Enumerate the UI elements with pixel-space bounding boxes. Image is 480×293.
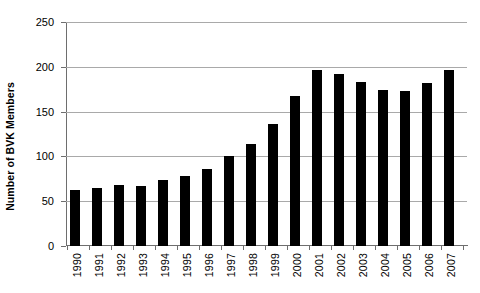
x-axis-tick-label: 2000 — [291, 253, 303, 277]
x-axis-tick — [155, 245, 156, 250]
x-axis-tick — [331, 245, 332, 250]
x-axis-tick — [243, 245, 244, 250]
x-axis-tick — [353, 245, 354, 250]
bar — [180, 176, 190, 246]
x-axis-tick — [67, 245, 68, 250]
bar — [290, 96, 300, 246]
x-axis-tick-label: 1998 — [247, 253, 259, 277]
x-axis-tick — [463, 245, 464, 250]
x-axis-tick — [199, 245, 200, 250]
x-axis-tick — [89, 245, 90, 250]
bar — [312, 70, 322, 246]
y-axis-tick — [61, 246, 66, 247]
y-axis-tick-label: 200 — [14, 61, 54, 73]
bar — [70, 190, 80, 246]
x-axis-tick — [419, 245, 420, 250]
bar — [356, 82, 366, 246]
bar — [224, 156, 234, 246]
bar — [246, 144, 256, 246]
x-axis-tick-label: 1995 — [181, 253, 193, 277]
x-axis-tick-label: 2003 — [357, 253, 369, 277]
x-axis-tick-label: 2007 — [445, 253, 457, 277]
x-axis-tick — [375, 245, 376, 250]
bar — [378, 90, 388, 246]
x-axis-tick-label: 1990 — [71, 253, 83, 277]
y-axis-tick-label: 100 — [14, 150, 54, 162]
x-axis-tick-label: 2005 — [401, 253, 413, 277]
bar — [158, 180, 168, 246]
bar — [422, 83, 432, 246]
x-axis-tick — [441, 245, 442, 250]
y-axis-tick — [61, 201, 66, 202]
bar — [202, 169, 212, 246]
x-axis-tick — [265, 245, 266, 250]
x-axis-tick-label: 1993 — [137, 253, 149, 277]
bar-chart: Number of BVK Members 050100150200250 19… — [0, 0, 480, 293]
x-axis-tick-label: 1991 — [93, 253, 105, 277]
y-axis-tick-label: 0 — [14, 240, 54, 252]
bar — [92, 188, 102, 246]
y-axis-tick — [61, 22, 66, 23]
x-axis-tick-label: 1994 — [159, 253, 171, 277]
bar — [136, 186, 146, 246]
bar — [444, 70, 454, 247]
x-axis-tick-label: 1996 — [203, 253, 215, 277]
x-axis-tick-label: 2002 — [335, 253, 347, 277]
x-axis-tick-label: 2006 — [423, 253, 435, 277]
y-axis-tick — [61, 112, 66, 113]
x-axis-tick-label: 2004 — [379, 253, 391, 277]
x-axis-tick — [177, 245, 178, 250]
x-axis-tick-label: 1999 — [269, 253, 281, 277]
plot-area — [66, 22, 467, 246]
x-axis-tick — [111, 245, 112, 250]
y-axis-tick-label: 50 — [14, 195, 54, 207]
x-axis-tick — [221, 245, 222, 250]
x-axis-tick — [287, 245, 288, 250]
bar — [268, 124, 278, 246]
bar — [334, 74, 344, 246]
x-axis-tick-label: 2001 — [313, 253, 325, 277]
bar — [114, 185, 124, 246]
y-axis-tick — [61, 67, 66, 68]
x-axis-tick — [397, 245, 398, 250]
x-axis-tick — [309, 245, 310, 250]
y-axis-tick-label: 150 — [14, 106, 54, 118]
gridline — [66, 67, 467, 68]
x-axis-tick-label: 1997 — [225, 253, 237, 277]
x-axis-tick-label: 1992 — [115, 253, 127, 277]
y-axis-tick-label: 250 — [14, 16, 54, 28]
x-axis-tick — [133, 245, 134, 250]
bar — [400, 91, 410, 246]
y-axis-tick — [61, 156, 66, 157]
gridline — [66, 22, 467, 23]
